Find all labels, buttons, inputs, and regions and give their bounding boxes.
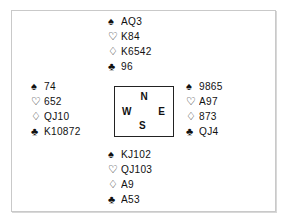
spade-icon: ♠ (186, 81, 199, 92)
hand-west-diamonds: QJ10 (44, 111, 69, 122)
hand-west-diamonds-row: ♢ QJ10 (31, 109, 84, 124)
compass-west-label: W (122, 107, 131, 117)
diamond-icon: ♢ (186, 111, 199, 122)
hand-east-spades: 9865 (199, 81, 223, 92)
compass-north-label: N (140, 92, 147, 102)
spade-icon: ♠ (108, 16, 121, 27)
hand-north-spades: AQ3 (121, 16, 142, 27)
hand-south-diamonds-row: ♢ A9 (108, 177, 155, 192)
hand-east-clubs-row: ♣ QJ4 (186, 124, 225, 139)
diamond-icon: ♢ (108, 46, 121, 57)
hand-west-hearts-row: ♡ 652 (31, 94, 84, 109)
club-icon: ♣ (108, 61, 121, 72)
hand-south-clubs: A53 (121, 194, 140, 205)
hand-south-hearts: QJ103 (121, 164, 152, 175)
heart-icon: ♡ (108, 164, 121, 175)
hand-north-clubs-row: ♣ 96 (108, 59, 154, 74)
hand-south-spades-row: ♠ KJ102 (108, 147, 155, 162)
hand-west-clubs: K10872 (44, 126, 81, 137)
club-icon: ♣ (186, 126, 199, 137)
heart-icon: ♡ (186, 96, 199, 107)
hand-south-diamonds: A9 (121, 179, 134, 190)
bridge-deal-diagram: ♠ AQ3 ♡ K84 ♢ K6542 ♣ 96 ♠ 74 ♡ 652 ♢ QJ… (0, 0, 288, 224)
hand-west-hearts: 652 (44, 96, 62, 107)
spade-icon: ♠ (31, 81, 44, 92)
compass-box: N W E S (114, 86, 174, 137)
hand-east-diamonds: 873 (199, 111, 217, 122)
hand-west: ♠ 74 ♡ 652 ♢ QJ10 ♣ K10872 (31, 79, 84, 139)
hand-east-hearts: A97 (199, 96, 218, 107)
hand-south-clubs-row: ♣ A53 (108, 192, 155, 207)
hand-east-spades-row: ♠ 9865 (186, 79, 225, 94)
hand-north-hearts: K84 (121, 31, 140, 42)
hand-west-spades: 74 (44, 81, 56, 92)
compass-south-label: S (139, 121, 146, 131)
hand-east-diamonds-row: ♢ 873 (186, 109, 225, 124)
hand-south: ♠ KJ102 ♡ QJ103 ♢ A9 ♣ A53 (108, 147, 155, 207)
hand-north-hearts-row: ♡ K84 (108, 29, 154, 44)
hand-east-hearts-row: ♡ A97 (186, 94, 225, 109)
spade-icon: ♠ (108, 149, 121, 160)
club-icon: ♣ (108, 194, 121, 205)
hand-west-clubs-row: ♣ K10872 (31, 124, 84, 139)
hand-east: ♠ 9865 ♡ A97 ♢ 873 ♣ QJ4 (186, 79, 225, 139)
hand-north-diamonds: K6542 (121, 46, 152, 57)
hand-east-clubs: QJ4 (199, 126, 218, 137)
hand-west-spades-row: ♠ 74 (31, 79, 84, 94)
hand-north-spades-row: ♠ AQ3 (108, 14, 154, 29)
hand-north: ♠ AQ3 ♡ K84 ♢ K6542 ♣ 96 (108, 14, 154, 74)
diamond-icon: ♢ (31, 111, 44, 122)
heart-icon: ♡ (31, 96, 44, 107)
heart-icon: ♡ (108, 31, 121, 42)
club-icon: ♣ (31, 126, 44, 137)
hand-north-diamonds-row: ♢ K6542 (108, 44, 154, 59)
hand-north-clubs: 96 (121, 61, 133, 72)
compass-east-label: E (158, 107, 165, 117)
diamond-icon: ♢ (108, 179, 121, 190)
hand-south-spades: KJ102 (121, 149, 151, 160)
hand-south-hearts-row: ♡ QJ103 (108, 162, 155, 177)
